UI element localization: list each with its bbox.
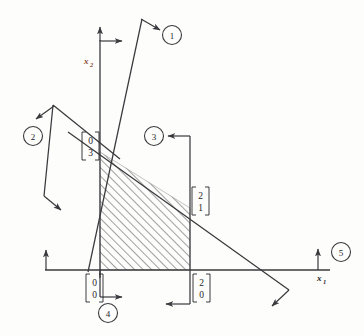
constraint-badge-3-label: 3	[152, 132, 157, 142]
constraint-badge-2[interactable]: 2	[24, 127, 43, 146]
vertex-label-2-1-bottom: 1	[198, 203, 203, 213]
constraint-badge-4[interactable]: 4	[99, 304, 118, 323]
x2-label-subscript: 2	[89, 61, 94, 68]
x2-axis-label: x 2	[83, 56, 94, 68]
vertex-label-0-0-bottom: 0	[92, 290, 97, 300]
constraint-line-x2-lower-stub	[166, 270, 190, 304]
constraint-badge-5[interactable]: 5	[332, 243, 351, 262]
vertex-label-2-0-bottom: 0	[199, 290, 204, 300]
vertex-label-0-3: 0 3	[82, 132, 99, 160]
diagram-canvas: x 2 x 1 1 2 3 4 5	[0, 0, 364, 336]
vertex-label-2-1: 2 1	[192, 187, 209, 215]
constraint-badge-4-label: 4	[106, 309, 111, 319]
x1-axis-label: x 1	[316, 273, 326, 285]
x2-label-text: x	[83, 56, 89, 66]
vertex-label-0-3-top: 0	[88, 136, 93, 146]
constraint-badge-5-label: 5	[339, 248, 344, 258]
constraint-badge-3[interactable]: 3	[145, 127, 164, 146]
vertex-label-0-3-bottom: 3	[88, 148, 93, 158]
constraint-badge-1-label: 1	[170, 31, 175, 41]
vertex-label-2-0-top: 2	[199, 278, 204, 288]
x1-label-text: x	[316, 273, 322, 283]
constraint-badge-1[interactable]: 1	[163, 26, 182, 45]
vertex-label-2-1-top: 2	[198, 191, 203, 201]
constraint-badge-2-label: 2	[31, 132, 36, 142]
vertex-label-0-0-top: 0	[92, 278, 97, 288]
vertex-label-2-0: 2 0	[193, 274, 210, 302]
feasible-region	[100, 152, 190, 270]
x1-label-subscript: 1	[323, 278, 326, 285]
lp-diagram-svg: x 2 x 1 1 2 3 4 5	[0, 0, 364, 336]
